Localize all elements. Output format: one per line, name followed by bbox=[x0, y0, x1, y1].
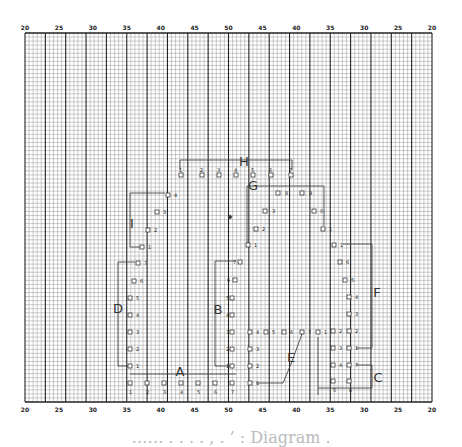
seat-marker-icon bbox=[230, 313, 234, 317]
seat-number: 2 bbox=[200, 167, 203, 173]
seat-number: 5 bbox=[136, 295, 139, 301]
seat-marker-icon bbox=[331, 363, 335, 367]
seat-marker-icon bbox=[166, 193, 170, 197]
seat-marker-icon bbox=[213, 381, 217, 385]
top-axis-tick: 30 bbox=[89, 24, 97, 31]
seat-marker-icon bbox=[155, 210, 159, 214]
seat-marker-icon bbox=[200, 173, 204, 177]
seat-marker-icon bbox=[162, 381, 166, 385]
seat-marker-icon bbox=[248, 364, 252, 368]
seat-number: 3 bbox=[355, 311, 358, 317]
seat-number: 2 bbox=[355, 328, 358, 334]
seat-number: 2 bbox=[256, 363, 259, 369]
top-axis-tick: 35 bbox=[326, 24, 334, 31]
seat-number: 4 bbox=[339, 362, 342, 368]
bottom-axis-tick: 40 bbox=[156, 406, 164, 413]
seat-number: 2 bbox=[146, 389, 149, 395]
bottom-axis-tick: 45 bbox=[190, 406, 198, 413]
group-label-b: B bbox=[214, 302, 223, 317]
seat-number: 6 bbox=[269, 167, 272, 173]
seat-marker-icon bbox=[132, 279, 136, 283]
seat-number: 3 bbox=[256, 346, 259, 352]
seat-marker-icon bbox=[128, 347, 132, 351]
seat-number: 5 bbox=[226, 295, 229, 301]
seat-number: 3 bbox=[217, 167, 220, 173]
seat-number: 4 bbox=[226, 312, 229, 318]
bottom-axis-tick: 50 bbox=[224, 406, 232, 413]
group-label-f: F bbox=[373, 285, 380, 300]
seat-marker-icon bbox=[343, 278, 347, 282]
seat-number: 6 bbox=[140, 278, 143, 284]
seat-number: 5 bbox=[251, 167, 254, 173]
top-axis-tick: 20 bbox=[21, 24, 29, 31]
seat-marker-icon bbox=[338, 260, 342, 264]
seat-number: 4 bbox=[136, 312, 139, 318]
top-axis-tick: 40 bbox=[292, 24, 300, 31]
bottom-axis-tick: 30 bbox=[360, 406, 368, 413]
seat-number: 1 bbox=[256, 380, 259, 386]
seat-marker-icon bbox=[332, 243, 336, 247]
bottom-axis-tick: 25 bbox=[55, 406, 63, 413]
seat-number: 6 bbox=[227, 277, 230, 283]
seat-number: 7 bbox=[289, 167, 292, 173]
seat-number: 1 bbox=[324, 329, 327, 335]
seat-number: 7 bbox=[355, 362, 358, 368]
seat-number: 7 bbox=[308, 329, 311, 335]
seat-number: 2 bbox=[136, 346, 139, 352]
seat-marker-icon bbox=[246, 243, 250, 247]
seat-number: 9 bbox=[309, 190, 312, 196]
group-label-d: D bbox=[113, 301, 123, 316]
top-axis-tick: 40 bbox=[156, 24, 164, 31]
seat-marker-icon bbox=[300, 191, 304, 195]
seat-marker-icon bbox=[140, 245, 144, 249]
seat-marker-icon bbox=[276, 191, 280, 195]
seat-marker-icon bbox=[254, 227, 258, 231]
seat-number: 1 bbox=[179, 167, 182, 173]
seat-marker-icon bbox=[331, 329, 335, 333]
bottom-axis-tick: 45 bbox=[258, 406, 266, 413]
seat-marker-icon bbox=[234, 173, 238, 177]
seat-number: 6 bbox=[349, 387, 352, 393]
seat-marker-icon bbox=[331, 346, 335, 350]
seat-number: 6 bbox=[214, 389, 217, 395]
seat-marker-icon bbox=[217, 173, 221, 177]
seat-marker-icon bbox=[321, 227, 325, 231]
group-label-a: A bbox=[176, 364, 185, 379]
bottom-axis-tick: 40 bbox=[292, 406, 300, 413]
seat-marker-icon bbox=[248, 330, 252, 334]
group-label-c: C bbox=[373, 370, 382, 385]
group-label-h: H bbox=[239, 154, 249, 169]
seat-number: 0 bbox=[320, 208, 323, 214]
seat-number: 6 bbox=[290, 329, 293, 335]
seat-number: 3 bbox=[136, 329, 139, 335]
seat-marker-icon bbox=[347, 363, 351, 367]
seat-marker-icon bbox=[248, 381, 252, 385]
seat-number: 7 bbox=[231, 389, 234, 395]
seat-marker-icon bbox=[230, 296, 234, 300]
seat-marker-icon bbox=[264, 330, 268, 334]
seat-number: 4 bbox=[180, 389, 183, 395]
seat-number: 1 bbox=[329, 226, 332, 232]
top-axis-tick: 20 bbox=[428, 24, 436, 31]
seat-marker-icon bbox=[251, 173, 255, 177]
seat-marker-icon bbox=[331, 379, 335, 383]
seat-number: 1 bbox=[148, 244, 151, 250]
group-label-e: E bbox=[287, 350, 295, 365]
seat-number: 4 bbox=[234, 167, 237, 173]
seat-marker-icon bbox=[128, 296, 132, 300]
bottom-axis-tick: 35 bbox=[123, 406, 131, 413]
group-label-i: I bbox=[130, 216, 134, 231]
seat-number: 1 bbox=[129, 389, 132, 395]
seat-number: 1 bbox=[254, 242, 257, 248]
seat-number: 2 bbox=[262, 226, 265, 232]
seat-marker-icon bbox=[238, 260, 242, 264]
group-label-g: G bbox=[248, 178, 258, 193]
seat-marker-icon bbox=[136, 261, 140, 265]
seat-marker-icon bbox=[128, 330, 132, 334]
bottom-axis-tick: 20 bbox=[428, 406, 436, 413]
seat-marker-icon bbox=[316, 330, 320, 334]
seat-marker-icon bbox=[145, 381, 149, 385]
seat-marker-icon bbox=[230, 347, 234, 351]
seat-marker-icon bbox=[230, 330, 234, 334]
